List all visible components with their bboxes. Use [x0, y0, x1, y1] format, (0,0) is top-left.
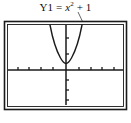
parabola-figure: Y1 = x2 + 1 — [0, 0, 131, 123]
plot-canvas — [0, 0, 131, 123]
